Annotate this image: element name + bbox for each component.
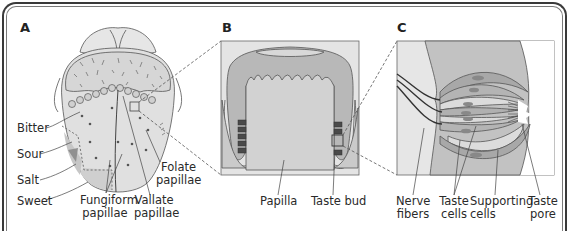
label-supporting-cells: Supporting cells (470, 195, 533, 221)
label-salt: Salt (17, 174, 39, 187)
taste-bud-illustration (397, 41, 554, 195)
label-taste-cells: Taste cells (437, 195, 471, 221)
panel-label-c: C (397, 20, 407, 35)
label-folate-papillae: Folate papillae (156, 161, 201, 187)
label-fungiform-papillae: Fungiform papillae (80, 194, 130, 220)
label-taste-bud: Taste bud (311, 195, 366, 208)
label-nerve-fibers: Nerve fibers (396, 195, 430, 221)
label-bitter: Bitter (17, 122, 49, 135)
label-taste-pore: Taste pore (527, 195, 559, 221)
label-papilla: Papilla (260, 195, 297, 208)
panel-label-a: A (20, 20, 30, 35)
papilla-illustration (221, 41, 397, 195)
panel-label-b: B (222, 20, 232, 35)
label-sour: Sour (17, 148, 43, 161)
label-vallate-papillae: Vallate papillae (134, 194, 174, 220)
label-sweet: Sweet (17, 195, 52, 208)
